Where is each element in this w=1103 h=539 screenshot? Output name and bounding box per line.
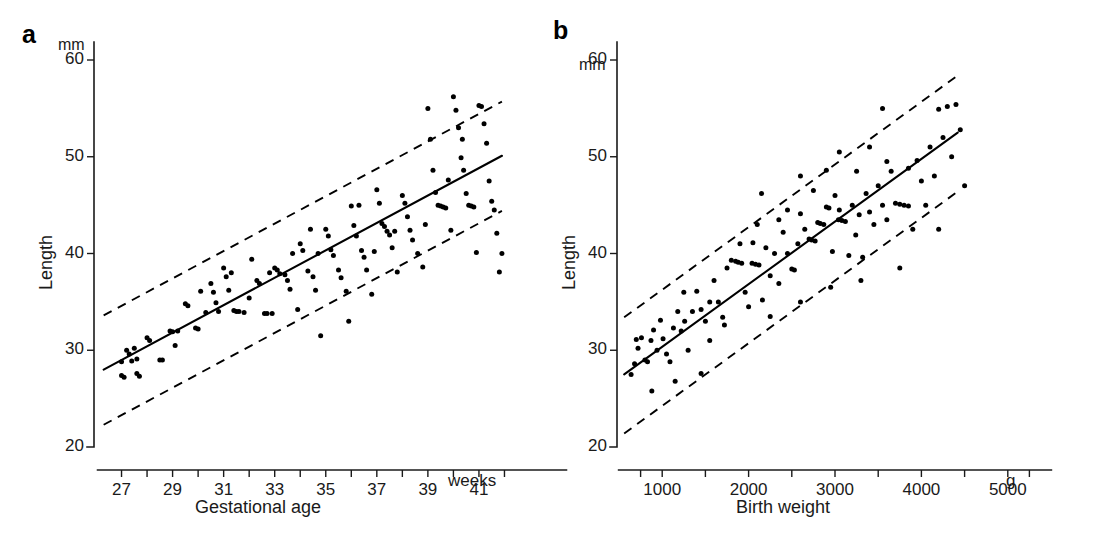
data-point <box>236 309 241 314</box>
data-point <box>860 255 865 260</box>
data-point <box>494 231 499 236</box>
data-point <box>453 108 458 113</box>
data-point <box>208 281 213 286</box>
data-point <box>648 338 653 343</box>
data-point <box>664 352 669 357</box>
data-point <box>448 228 453 233</box>
data-point <box>826 206 831 211</box>
figure-root: a mm Length Gestational age weeks 203040… <box>0 0 1103 539</box>
data-point <box>681 290 686 295</box>
data-point <box>858 278 863 283</box>
data-point <box>382 224 387 229</box>
x-tick-label: 5000 <box>978 480 1038 500</box>
data-point <box>857 212 862 217</box>
data-point <box>923 203 928 208</box>
data-point <box>410 237 415 242</box>
data-point <box>813 238 818 243</box>
data-point <box>364 267 369 272</box>
data-point <box>958 127 963 132</box>
data-point <box>405 214 410 219</box>
data-point <box>402 201 407 206</box>
data-point <box>216 309 221 314</box>
data-point <box>198 289 203 294</box>
data-point <box>755 222 760 227</box>
data-point <box>679 328 684 333</box>
data-point <box>906 204 911 209</box>
data-point <box>824 168 829 173</box>
data-point <box>716 299 721 304</box>
data-point <box>763 245 768 250</box>
data-point <box>759 191 764 196</box>
data-point <box>919 178 924 183</box>
x-tick-label: 3000 <box>805 480 865 500</box>
data-point <box>456 125 461 130</box>
data-point <box>915 158 920 163</box>
x-tick-label: 4000 <box>891 480 951 500</box>
data-point <box>785 251 790 256</box>
data-point <box>132 346 137 351</box>
data-point <box>354 234 359 239</box>
data-point <box>884 217 889 222</box>
data-point <box>833 193 838 198</box>
data-point <box>686 348 691 353</box>
data-point <box>651 327 656 332</box>
y-axis-line <box>87 42 94 447</box>
data-point <box>846 253 851 258</box>
data-point <box>720 315 725 320</box>
data-point <box>776 217 781 222</box>
data-point <box>331 253 336 258</box>
data-point <box>285 278 290 283</box>
data-point <box>795 241 800 246</box>
data-point <box>639 335 644 340</box>
data-point <box>461 168 466 173</box>
data-point <box>349 204 354 209</box>
data-point <box>423 222 428 227</box>
data-point <box>492 207 497 212</box>
data-point <box>843 219 848 224</box>
data-point <box>308 227 313 232</box>
data-point <box>949 154 954 159</box>
data-point <box>305 268 310 273</box>
data-point <box>880 106 885 111</box>
y-tick-label: 30 <box>571 339 607 359</box>
data-point <box>415 251 420 256</box>
data-point <box>326 234 331 239</box>
data-point <box>313 288 318 293</box>
data-point <box>295 307 300 312</box>
data-point <box>288 287 293 292</box>
data-point <box>446 177 451 182</box>
data-point <box>499 251 504 256</box>
data-point <box>798 211 803 216</box>
data-point <box>707 299 712 304</box>
data-point <box>811 188 816 193</box>
data-point <box>699 371 704 376</box>
y-tick-label: 50 <box>571 146 607 166</box>
data-point <box>768 273 773 278</box>
data-point <box>265 311 270 316</box>
data-point <box>634 337 639 342</box>
data-point <box>267 270 272 275</box>
data-point <box>750 240 755 245</box>
data-point <box>673 379 678 384</box>
data-point <box>636 346 641 351</box>
data-point <box>392 229 397 234</box>
data-point <box>390 245 395 250</box>
data-point <box>160 357 165 362</box>
data-point <box>351 223 356 228</box>
data-point <box>129 358 134 363</box>
data-point <box>737 241 742 246</box>
y-tick-label: 20 <box>48 436 84 456</box>
x-tick-label: 41 <box>449 480 509 500</box>
lower-prediction-band <box>624 192 958 434</box>
scatter-points-group <box>119 94 504 380</box>
data-point <box>318 333 323 338</box>
data-point <box>400 193 405 198</box>
data-point <box>821 222 826 227</box>
data-point <box>127 352 132 357</box>
data-point <box>147 338 152 343</box>
data-point <box>682 319 687 324</box>
data-point <box>694 289 699 294</box>
data-point <box>270 311 275 316</box>
data-point <box>725 266 730 271</box>
data-point <box>119 359 124 364</box>
